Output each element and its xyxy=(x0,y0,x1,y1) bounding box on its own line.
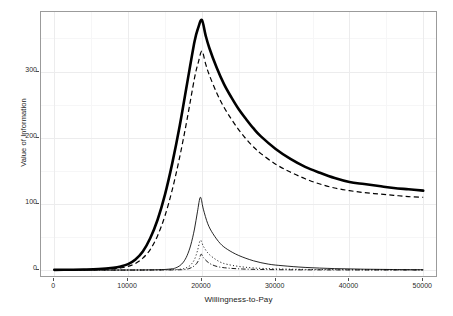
value-of-information-chart: Value of Information Willingness-to-Pay … xyxy=(0,0,453,316)
y-tick-mark xyxy=(36,137,39,138)
x-tick-label: 0 xyxy=(51,282,55,289)
x-tick-mark xyxy=(348,278,349,281)
x-tick-label: 40000 xyxy=(339,282,358,289)
x-tick-mark xyxy=(127,278,128,281)
series-line-1 xyxy=(54,51,423,270)
x-tick-label: 20000 xyxy=(191,282,210,289)
x-tick-label: 30000 xyxy=(265,282,284,289)
y-tick-mark xyxy=(36,203,39,204)
plot-series-svg xyxy=(41,12,437,277)
series-line-2 xyxy=(54,197,423,270)
x-tick-mark xyxy=(53,278,54,281)
y-tick-mark xyxy=(36,269,39,270)
plot-panel xyxy=(40,11,437,277)
x-tick-mark xyxy=(275,278,276,281)
x-tick-mark xyxy=(422,278,423,281)
x-axis-title: Willingness-to-Pay xyxy=(40,295,437,304)
series-line-0 xyxy=(54,20,423,270)
y-tick-mark xyxy=(36,71,39,72)
x-tick-label: 10000 xyxy=(117,282,136,289)
x-tick-mark xyxy=(201,278,202,281)
x-tick-label: 50000 xyxy=(413,282,432,289)
